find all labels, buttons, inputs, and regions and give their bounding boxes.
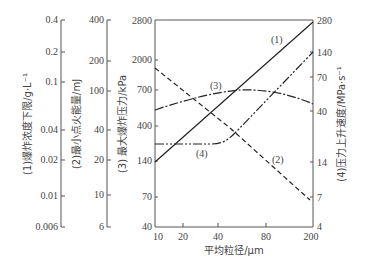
axis4-tick: 40 xyxy=(317,106,327,117)
axis2-tick: 20 xyxy=(94,154,104,165)
axis-1: 0.4 0.2 0.1 0.04 0.02 0.01 0.006 (1)爆炸浓度… xyxy=(21,14,65,232)
axis2-tick: 6 xyxy=(99,221,104,232)
axis1-tick: 0.4 xyxy=(46,14,59,25)
axis4-tick: 280 xyxy=(317,15,332,26)
curve-label-2: (2) xyxy=(272,154,284,166)
axis4-label: (4)压力上升速度/MPa·s⁻¹ xyxy=(335,66,347,182)
axis1-tick: 0.04 xyxy=(41,124,59,135)
curve-label-3: (3) xyxy=(210,80,222,92)
axis4-tick: 14 xyxy=(317,157,327,168)
axis-4: 280 140 70 40 14 7 4 (4)压力上升速度/MPa·s⁻¹ xyxy=(310,15,347,232)
axis2-tick: 200 xyxy=(89,55,104,66)
axis3-tick: 400 xyxy=(137,120,152,131)
axis2-tick: 40 xyxy=(94,124,104,135)
axis3-tick: 2000 xyxy=(132,54,152,65)
curve-2 xyxy=(155,68,310,200)
axis2-label: (2)最小点火能量/mJ xyxy=(70,79,82,169)
axis1-tick: 0.006 xyxy=(36,221,59,232)
axis1-label: (1)爆炸浓度下限/g·L⁻¹ xyxy=(21,73,33,175)
axis1-tick: 0.1 xyxy=(46,76,59,87)
curve-3 xyxy=(155,90,313,110)
axis4-tick: 140 xyxy=(317,47,332,58)
axis3-label: (3) 最大爆炸压力/kPa xyxy=(116,75,128,173)
axis3-tick: 700 xyxy=(137,84,152,95)
axis3-tick: 40 xyxy=(142,221,152,232)
axis4-tick: 7 xyxy=(317,192,322,203)
axis3-tick: 2800 xyxy=(132,15,152,26)
axis2-tick: 400 xyxy=(89,14,104,25)
x-axis-label: 平均粒径/μm xyxy=(204,244,263,256)
axis4-tick: 70 xyxy=(317,72,327,83)
x-tick: 200 xyxy=(304,231,319,242)
axis1-tick: 0.2 xyxy=(46,46,59,57)
axis2-tick: 100 xyxy=(89,85,104,96)
x-axis: 10 20 40 80 200 平均粒径/μm xyxy=(153,223,319,256)
axis1-tick: 0.02 xyxy=(41,154,59,165)
curve-label-1: (1) xyxy=(271,34,283,46)
x-tick: 40 xyxy=(213,231,223,242)
axis2-tick: 10 xyxy=(94,189,104,200)
curve-label-4: (4) xyxy=(196,148,208,160)
axis3-tick: 70 xyxy=(142,191,152,202)
axis1-tick: 0.01 xyxy=(41,190,59,201)
x-tick: 20 xyxy=(178,231,188,242)
x-tick: 10 xyxy=(153,231,163,242)
chart: 0.4 0.2 0.1 0.04 0.02 0.01 0.006 (1)爆炸浓度… xyxy=(0,0,366,268)
axis3-tick: 140 xyxy=(137,155,152,166)
curve-1 xyxy=(155,22,313,162)
curve-4 xyxy=(155,52,313,144)
axis-2: 400 200 100 40 20 10 6 (2)最小点火能量/mJ xyxy=(70,14,111,232)
x-tick: 80 xyxy=(261,231,271,242)
